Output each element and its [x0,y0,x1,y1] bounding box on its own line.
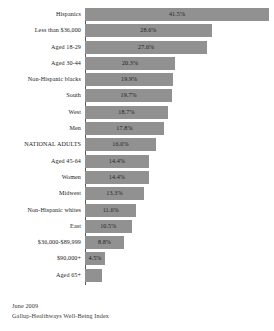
bar-chart: Hispanics41.5%Less than $36,00028.6%Aged… [0,0,274,331]
bar-value-label: 19.9% [121,73,137,86]
bar-row: East10.5% [0,220,274,233]
category-label: Non-Hispanic whites [0,204,85,217]
bar-track: 16.0% [85,138,274,151]
bar-row: Women14.4% [0,171,274,184]
bar-track: 19.7% [85,89,274,102]
bar-row: $90,000+4.5% [0,252,274,265]
bar-value-label: 27.6% [138,41,154,54]
bar-value-label: 8.8% [98,236,111,249]
bar-track: 11.6% [85,204,274,217]
category-label: Non-Hispanic blacks [0,73,85,86]
bar-track: 18.7% [85,106,274,119]
bar-track: 41.5% [85,8,274,21]
bar-track [85,269,274,282]
bar-track: 10.5% [85,220,274,233]
bar-track: 17.8% [85,122,274,135]
bar-row: Aged 18-2927.6% [0,41,274,54]
bar-row: Aged 65+ [0,269,274,282]
bar-value-label: 14.4% [109,171,125,184]
bar-track: 4.5% [85,252,274,265]
category-label: Aged 65+ [0,269,85,282]
category-label: Midwest [0,187,85,200]
bar-track: 13.3% [85,187,274,200]
bar-row: Men17.8% [0,122,274,135]
category-label: Women [0,171,85,184]
category-label: Less than $36,000 [0,24,85,37]
bar-row: Non-Hispanic whites11.6% [0,204,274,217]
bar-track: 8.8% [85,236,274,249]
bar-row: Midwest13.3% [0,187,274,200]
footer-source: Gallup-Healthways Well-Being Index [12,311,109,321]
bar-track: 19.9% [85,73,274,86]
category-label: NATIONAL ADULTS [0,138,85,151]
category-label: Men [0,122,85,135]
bar-track: 14.4% [85,171,274,184]
bar-track: 14.4% [85,155,274,168]
bar-value-label: 10.5% [100,220,116,233]
category-label: East [0,220,85,233]
chart-footer: June 2009 Gallup-Healthways Well-Being I… [12,301,109,321]
category-label: $36,000-$89,999 [0,236,85,249]
bar-row: West18.7% [0,106,274,119]
bar-row: Hispanics41.5% [0,8,274,21]
category-label: West [0,106,85,119]
bar-row: $36,000-$89,9998.8% [0,236,274,249]
bar-row: South19.7% [0,89,274,102]
bar-value-label: 19.7% [121,89,137,102]
footer-date: June 2009 [12,301,109,311]
bar-track: 28.6% [85,24,274,37]
bar-value-label: 13.3% [106,187,122,200]
bar-track: 20.3% [85,57,274,70]
category-label: $90,000+ [0,252,85,265]
category-label: Aged 18-29 [0,41,85,54]
bar-value-label: 20.3% [122,57,138,70]
bar-value-label: 17.8% [116,122,132,135]
bar-row: Aged 45-6414.4% [0,155,274,168]
bar-value-label: 4.5% [88,252,101,265]
bar-value-label: 11.6% [103,204,119,217]
bar-row: NATIONAL ADULTS16.0% [0,138,274,151]
bar-value-label: 14.4% [109,155,125,168]
category-label: Hispanics [0,8,85,21]
category-label: Aged 45-64 [0,155,85,168]
bar-value-label: 41.5% [169,8,185,21]
bar-row: Non-Hispanic blacks19.9% [0,73,274,86]
bar-value-label: 16.0% [112,138,128,151]
bar-track: 27.6% [85,41,274,54]
category-label: Aged 30-44 [0,57,85,70]
bar-row: Aged 30-4420.3% [0,57,274,70]
category-label: South [0,89,85,102]
bar [85,269,102,282]
bar-value-label: 18.7% [118,106,134,119]
bar-value-label: 28.6% [140,24,156,37]
plot-area: Hispanics41.5%Less than $36,00028.6%Aged… [0,8,274,285]
bar-row: Less than $36,00028.6% [0,24,274,37]
